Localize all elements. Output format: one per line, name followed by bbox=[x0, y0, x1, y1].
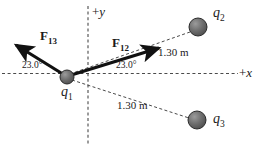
force-label-f12: F12 bbox=[112, 36, 129, 53]
angle-label-f13: 23.0° bbox=[22, 61, 42, 71]
distance-label-q1-q3: 1.30 m bbox=[117, 100, 148, 111]
distance-label-q1-q2: 1.30 m bbox=[158, 47, 189, 58]
physics-force-diagram: +x +y F13 F12 23.0° 23.0° q1 q2 q3 1.30 … bbox=[0, 0, 273, 149]
charge-sphere-q1 bbox=[60, 70, 74, 84]
charge-label-q1: q1 bbox=[61, 85, 73, 102]
force-label-f13: F13 bbox=[40, 29, 57, 46]
charge-label-q3: q3 bbox=[213, 112, 225, 129]
x-axis-label: +x bbox=[239, 66, 252, 79]
charge-spheres-layer bbox=[0, 0, 273, 149]
charge-label-q2: q2 bbox=[213, 6, 225, 23]
charge-sphere-q3 bbox=[188, 111, 206, 129]
y-axis-label: +y bbox=[92, 5, 105, 18]
angle-label-f12: 23.0° bbox=[116, 61, 136, 71]
charge-sphere-q2 bbox=[189, 18, 207, 36]
